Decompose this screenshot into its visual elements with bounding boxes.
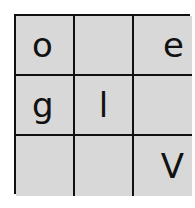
grid-cell-r2-c1[interactable] xyxy=(75,136,134,196)
letter-grid: o e g l V xyxy=(14,14,190,194)
grid-cell-r2-c0[interactable] xyxy=(16,136,75,196)
grid-cell-r1-c0[interactable]: g xyxy=(16,76,75,136)
grid-cell-r0-c2[interactable]: e xyxy=(134,16,192,76)
grid-cell-r0-c0[interactable]: o xyxy=(16,16,75,76)
grid-cell-r1-c2[interactable] xyxy=(134,76,192,136)
grid-cell-r0-c1[interactable] xyxy=(75,16,134,76)
grid-cell-r2-c2[interactable]: V xyxy=(134,136,192,196)
grid-cell-r1-c1[interactable]: l xyxy=(75,76,134,136)
